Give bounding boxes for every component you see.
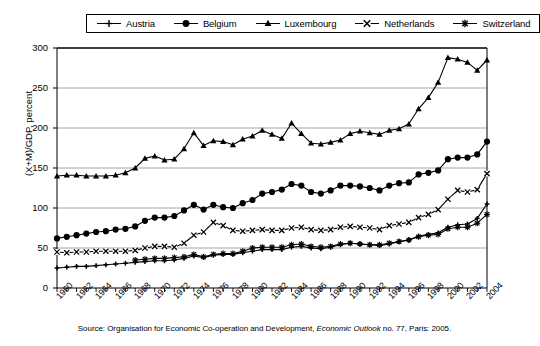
series-switzerland: [132, 211, 490, 263]
source-italic-title: Economic Outlook: [317, 324, 381, 333]
source-suffix: no. 77, Paris: 2005.: [381, 324, 452, 333]
series-netherlands: [54, 171, 490, 256]
source-prefix: Source: Organisation for Economic Co-ope…: [78, 324, 317, 333]
source-note: Source: Organisation for Economic Co-ope…: [0, 324, 529, 333]
series-luxembourg: [54, 55, 490, 179]
series-belgium: [54, 139, 490, 242]
